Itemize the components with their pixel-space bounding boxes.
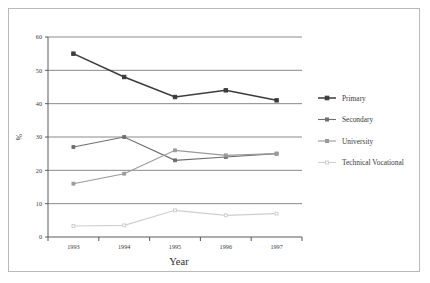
data-point-marker	[72, 52, 75, 55]
gridlines	[48, 37, 302, 204]
x-tick-label: 1996	[220, 243, 232, 250]
legend-marker	[326, 140, 329, 143]
data-point-marker	[173, 95, 176, 98]
legend-item-secondary[interactable]: Secondary	[318, 115, 373, 124]
x-tick-label: 1993	[67, 243, 79, 250]
legend-label: Primary	[342, 94, 366, 103]
data-point-marker	[174, 159, 177, 162]
series-line	[73, 210, 276, 226]
y-axis-title: %	[15, 133, 24, 140]
data-point-marker	[275, 212, 278, 215]
data-point-marker	[174, 209, 177, 212]
x-axis-tick-labels: 19931994199519961997	[48, 237, 302, 250]
data-point-marker	[123, 75, 126, 78]
data-point-marker	[123, 224, 126, 227]
data-point-marker	[224, 214, 227, 217]
data-point-marker	[174, 149, 177, 152]
y-tick-label: 50	[36, 67, 42, 74]
legend-item-primary[interactable]: Primary	[318, 94, 366, 103]
legend-marker	[325, 96, 329, 100]
y-tick-label: 60	[36, 33, 42, 40]
y-tick-label: 0	[39, 233, 42, 240]
y-tick-label: 20	[36, 167, 42, 174]
series-primary	[72, 52, 279, 102]
data-point-marker	[72, 225, 75, 228]
series-line	[73, 54, 276, 101]
line-chart: 0102030405060 19931994199519961997 Prima…	[0, 0, 430, 283]
chart-legend: PrimarySecondaryUniversityTechnical Voca…	[318, 94, 404, 168]
x-tick-label: 1995	[169, 243, 181, 250]
series-technical-vocational	[72, 209, 278, 227]
legend-item-university[interactable]: University	[318, 137, 374, 146]
legend-label: University	[342, 137, 374, 146]
data-point-marker	[275, 99, 278, 102]
y-tick-label: 40	[36, 100, 42, 107]
y-axis-tick-labels: 0102030405060	[36, 33, 48, 240]
figure-canvas: 0102030405060 19931994199519961997 Prima…	[0, 0, 430, 283]
x-tick-label: 1997	[270, 243, 282, 250]
legend-label: Secondary	[342, 115, 373, 124]
x-axis-title: Year	[169, 256, 189, 267]
y-tick-label: 30	[36, 133, 42, 140]
legend-item-technical-vocational[interactable]: Technical Vocational	[318, 158, 404, 167]
data-point-marker	[224, 154, 227, 157]
y-tick-label: 10	[36, 200, 42, 207]
legend-label: Technical Vocational	[342, 158, 404, 167]
legend-marker	[326, 118, 329, 121]
data-point-marker	[123, 136, 126, 139]
x-tick-label: 1994	[118, 243, 130, 250]
data-point-marker	[123, 172, 126, 175]
series-university	[72, 149, 278, 185]
data-point-marker	[224, 89, 227, 92]
data-point-marker	[72, 146, 75, 149]
data-point-marker	[275, 152, 278, 155]
data-point-marker	[72, 182, 75, 185]
data-series	[72, 52, 279, 227]
legend-marker	[326, 161, 329, 164]
